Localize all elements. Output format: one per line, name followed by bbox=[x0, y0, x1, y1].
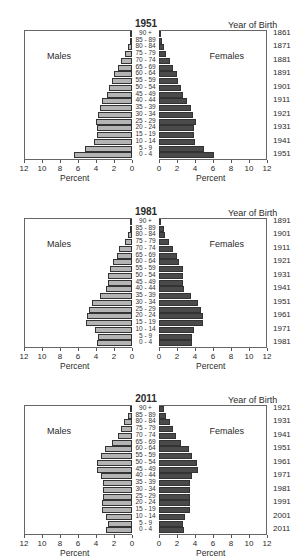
x-axis-label-right: Percent bbox=[196, 361, 225, 371]
female-bar bbox=[159, 92, 183, 98]
female-bar bbox=[159, 152, 214, 158]
tick-label: 4 bbox=[94, 352, 98, 361]
females-panel: Females bbox=[159, 218, 267, 348]
tick-mark bbox=[159, 535, 160, 538]
female-bar bbox=[159, 226, 164, 232]
female-bar bbox=[159, 98, 187, 104]
tick-mark bbox=[213, 535, 214, 538]
female-bar bbox=[159, 313, 203, 319]
female-bar bbox=[159, 71, 177, 77]
age-group-label: 60 - 64 bbox=[132, 70, 159, 77]
male-bar bbox=[94, 139, 132, 145]
year-of-birth-label: 1971 bbox=[273, 324, 291, 333]
tick-mark bbox=[231, 535, 232, 538]
year-of-birth-label: 1941 bbox=[273, 136, 291, 145]
chart-title: 1981 bbox=[120, 206, 172, 217]
tick-mark bbox=[177, 535, 178, 538]
age-group-label: 80 - 84 bbox=[132, 231, 159, 238]
female-bar bbox=[159, 514, 185, 520]
tick-mark bbox=[24, 535, 25, 538]
age-group-label: 0 - 4 bbox=[132, 151, 159, 158]
age-group-label: 35 - 39 bbox=[132, 292, 159, 299]
tick-label: 6 bbox=[76, 539, 80, 548]
year-of-birth-label: 1941 bbox=[273, 430, 291, 439]
year-of-birth-label: 1991 bbox=[273, 497, 291, 506]
tick-mark bbox=[231, 160, 232, 163]
male-bar bbox=[103, 480, 132, 486]
tick-label: 2 bbox=[175, 164, 179, 173]
age-group-label: 70 - 74 bbox=[132, 432, 159, 439]
tick-mark bbox=[96, 535, 97, 538]
female-bar bbox=[159, 58, 170, 64]
female-bar bbox=[159, 320, 203, 326]
female-bar bbox=[159, 51, 166, 57]
female-bar bbox=[159, 112, 193, 118]
tick-label: 4 bbox=[94, 164, 98, 173]
age-group-label: 80 - 84 bbox=[132, 43, 159, 50]
female-bar bbox=[159, 327, 194, 333]
age-group-label: 40 - 44 bbox=[132, 472, 159, 479]
age-group-label: 15 - 19 bbox=[132, 506, 159, 513]
male-bar bbox=[97, 340, 132, 346]
age-group-label: 10 - 14 bbox=[132, 326, 159, 333]
male-bar bbox=[108, 273, 132, 279]
male-bar bbox=[103, 494, 132, 500]
female-bar bbox=[159, 467, 198, 473]
age-group-label: 55 - 59 bbox=[132, 265, 159, 272]
tick-mark bbox=[24, 160, 25, 163]
tick-label: 12 bbox=[263, 539, 272, 548]
age-group-label: 45 - 49 bbox=[132, 279, 159, 286]
tick-label: 4 bbox=[193, 352, 197, 361]
tick-label: 6 bbox=[76, 352, 80, 361]
age-group-label: 30 - 34 bbox=[132, 486, 159, 493]
pyramid-1951: 1951Year of BirthMalesFemales0 - 45 - 91… bbox=[0, 18, 307, 198]
chart-title: 1951 bbox=[120, 18, 172, 29]
year-of-birth-label: 1941 bbox=[273, 283, 291, 292]
x-axis-right: 024681012 bbox=[159, 160, 267, 172]
age-group-label: 85 - 89 bbox=[132, 225, 159, 232]
tick-label: 10 bbox=[38, 352, 47, 361]
age-group-label: 5 - 9 bbox=[132, 145, 159, 152]
age-group-label: 15 - 19 bbox=[132, 131, 159, 138]
female-bar bbox=[159, 507, 190, 513]
female-bar bbox=[159, 105, 191, 111]
x-axis-label-left: Percent bbox=[60, 173, 89, 183]
age-group-label: 55 - 59 bbox=[132, 77, 159, 84]
age-group-label: 0 - 4 bbox=[132, 339, 159, 346]
male-bar bbox=[118, 433, 132, 439]
male-bar bbox=[100, 293, 132, 299]
age-group-label: 0 - 4 bbox=[132, 526, 159, 533]
age-group-label: 65 - 69 bbox=[132, 252, 159, 259]
male-bar bbox=[97, 132, 132, 138]
male-bar bbox=[100, 105, 132, 111]
male-bar bbox=[101, 453, 132, 459]
males-label: Males bbox=[47, 426, 71, 436]
male-bar bbox=[86, 320, 132, 326]
tick-mark bbox=[267, 160, 268, 163]
year-of-birth-title: Year of Birth bbox=[228, 208, 277, 218]
tick-mark bbox=[213, 348, 214, 351]
tick-mark bbox=[159, 348, 160, 351]
male-bar bbox=[102, 98, 132, 104]
year-of-birth-label: 1931 bbox=[273, 270, 291, 279]
year-of-birth-label: 1961 bbox=[273, 457, 291, 466]
tick-label: 2 bbox=[112, 164, 116, 173]
tick-label: 2 bbox=[175, 352, 179, 361]
female-bar bbox=[159, 253, 177, 259]
female-bar bbox=[159, 440, 181, 446]
males-panel: Males bbox=[24, 218, 132, 348]
female-bar bbox=[159, 406, 164, 412]
male-bar bbox=[108, 280, 132, 286]
male-bar bbox=[121, 426, 132, 432]
tick-label: 0 bbox=[157, 539, 161, 548]
tick-mark bbox=[78, 348, 79, 351]
year-of-birth-label: 1901 bbox=[273, 82, 291, 91]
male-bar bbox=[101, 473, 132, 479]
age-group-label: 30 - 34 bbox=[132, 111, 159, 118]
year-of-birth-label: 1911 bbox=[273, 243, 290, 252]
age-group-label: 25 - 29 bbox=[132, 306, 159, 313]
age-group-label: 20 - 24 bbox=[132, 312, 159, 319]
female-bar bbox=[159, 453, 192, 459]
tick-label: 10 bbox=[245, 539, 254, 548]
age-group-label: 35 - 39 bbox=[132, 479, 159, 486]
